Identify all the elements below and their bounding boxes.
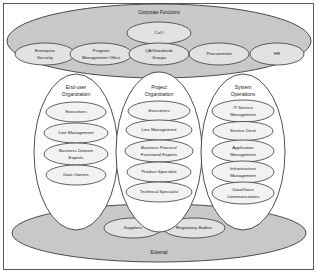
node-hr-label: HR [274,51,280,56]
group-end-user-organization-label-2: Organization [62,91,91,97]
node-enterprise-security-label-2: Security [37,55,54,60]
node-eu-data-owners-label: Data Owners [63,172,89,177]
node-po-technical-specialist-label: Technical Specialist [140,189,179,194]
group-end-user-organization-label-1: End-user [66,84,87,90]
node-suppliers-label: Suppliers [124,225,143,230]
node-cxo-label: CxO [155,30,164,35]
node-po-executives-label: Executives [148,108,170,113]
node-qa-standards-groups-label-1: QA/Standards [145,48,173,53]
group-project-organization-label-1: Project [151,84,167,90]
node-program-management-office-label-1: Program [93,48,110,53]
node-procurement-label: Procurement [206,51,232,56]
diagram-canvas: Corporate Functions CxO Enterprise Secur… [0,0,317,273]
node-po-product-specialist-label: Product Specialist [141,169,177,174]
node-so-app-mgmt-label-2: Management [230,152,256,157]
node-po-line-management-label: Line Management [141,127,177,132]
node-qa-standards-groups-label-2: Groups [152,55,167,60]
node-eu-line-management-label: Line Management [58,130,94,135]
node-so-itsm-label-2: Management [230,112,256,117]
node-po-bpfe-label-1: Business Process/ [141,145,178,150]
node-eu-executives-label: Executives [65,109,87,114]
node-eu-business-domain-experts-label-1: Business Domain [59,148,94,153]
node-po-bpfe-label-2: Functional Experts [141,152,178,157]
node-so-itsm-label-1: IT Service [233,105,253,110]
node-so-app-mgmt-label-1: Application [232,145,254,150]
node-so-dvc-label-2: Communications [227,194,261,199]
node-program-management-office-label-2: Management Office [82,55,121,60]
zone-corporate-functions-label: Corporate Functions [138,10,180,15]
zone-external-label: External [151,250,168,255]
node-so-service-desk-label: Service Desk [230,128,257,133]
organization-diagram: Corporate Functions CxO Enterprise Secur… [0,0,317,273]
group-system-operations-label-1: System [235,84,252,90]
node-so-dvc-label-1: Data/Voice [232,187,254,192]
node-so-infra-mgmt-label-2: Management [230,173,256,178]
group-system-operations-label-2: Operations [231,91,256,97]
group-project-organization-label-2: Organization [145,91,174,97]
node-enterprise-security-label-1: Enterprise [35,48,56,53]
node-regulatory-bodies-label: Regulatory Bodies [176,225,213,230]
node-eu-business-domain-experts-label-2: Experts [69,155,85,160]
node-so-infra-mgmt-label-1: Infrastructure [230,166,256,171]
